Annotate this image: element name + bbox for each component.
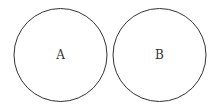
set-a-label: A [55, 48, 65, 62]
set-b-label: B [155, 48, 164, 62]
venn-diagram: A B [0, 0, 219, 112]
